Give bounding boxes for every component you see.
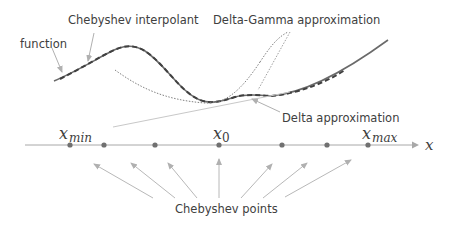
x0-sub: 0 — [222, 131, 230, 145]
x-min-sub: min — [69, 131, 92, 145]
delta-label: Delta approximation — [282, 111, 399, 125]
x-axis-label: x — [425, 136, 434, 154]
x-max-label: x max — [362, 124, 398, 145]
arrow — [241, 164, 272, 198]
delta-arrow — [252, 99, 280, 112]
chebyshev-interpolant-label: Chebyshev interpolant — [68, 13, 199, 27]
chebyshev-point — [365, 142, 370, 147]
function-arrow — [52, 48, 62, 72]
x-axis-arrowhead-icon — [412, 142, 419, 149]
diagram-canvas: function Chebyshev interpolant Delta-Gam… — [0, 0, 460, 226]
x-max-sub: max — [372, 131, 398, 145]
chebyshev-point — [152, 142, 157, 147]
chebyshev-point — [324, 142, 329, 147]
chebyshev-point — [216, 142, 221, 147]
chebyshev-point — [101, 142, 106, 147]
x0-base: x — [213, 124, 222, 143]
arrow — [168, 163, 197, 198]
chebyshev-interpolant-arrow — [88, 33, 94, 61]
delta-gamma-arrow — [258, 32, 290, 90]
delta-gamma-curve-ext — [260, 32, 288, 62]
delta-gamma-label: Delta-Gamma approximation — [213, 13, 380, 27]
arrow — [131, 163, 175, 198]
chebyshev-point — [279, 142, 284, 147]
x-max-base: x — [362, 124, 371, 143]
arrow — [94, 164, 153, 198]
arrow — [263, 163, 307, 198]
function-label: function — [20, 37, 67, 51]
x-min-label: x min — [59, 124, 92, 145]
chebyshev-points-label: Chebyshev points — [175, 202, 278, 216]
function-curve — [54, 40, 388, 102]
chebyshev-interpolant-curve — [60, 46, 345, 102]
delta-line — [113, 92, 290, 127]
x-min-base: x — [59, 124, 68, 143]
arrow — [285, 160, 351, 197]
x0-label: x 0 — [213, 124, 230, 145]
chebyshev-point-arrows — [94, 159, 351, 198]
